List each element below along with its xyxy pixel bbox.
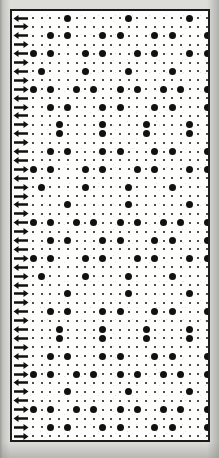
matrix-dot-small bbox=[154, 62, 156, 64]
matrix-dot-small bbox=[76, 124, 78, 126]
matrix-dot-small bbox=[197, 293, 199, 295]
arrow-marker-icon-right bbox=[13, 432, 29, 441]
matrix-dot-small bbox=[189, 222, 191, 224]
matrix-dot-small bbox=[93, 35, 95, 37]
arrow-marker-icon-right bbox=[13, 298, 29, 307]
matrix-dot-small bbox=[84, 213, 86, 215]
matrix-dot-small bbox=[180, 231, 182, 233]
matrix-dot-small bbox=[58, 275, 60, 277]
matrix-dot-small bbox=[41, 426, 43, 428]
matrix-dot-large bbox=[177, 406, 184, 413]
matrix-dot-small bbox=[76, 320, 78, 322]
matrix-dot-small bbox=[206, 124, 208, 126]
dot-matrix-grid bbox=[29, 11, 208, 440]
matrix-dot-small bbox=[206, 195, 208, 197]
matrix-dot-small bbox=[58, 382, 60, 384]
matrix-dot-small bbox=[154, 177, 156, 179]
matrix-dot-small bbox=[110, 364, 112, 366]
arrow-marker-icon-left bbox=[13, 352, 29, 361]
matrix-dot-small bbox=[76, 97, 78, 99]
matrix-dot-small bbox=[145, 195, 147, 197]
matrix-dot-small bbox=[154, 17, 156, 19]
matrix-dot-small bbox=[154, 337, 156, 339]
matrix-dot-small bbox=[136, 364, 138, 366]
matrix-dot-small bbox=[49, 231, 51, 233]
matrix-dot-small bbox=[128, 311, 130, 313]
matrix-dot-small bbox=[102, 97, 104, 99]
matrix-dot-small bbox=[84, 329, 86, 331]
matrix-dot-small bbox=[180, 195, 182, 197]
matrix-dot-small bbox=[171, 302, 173, 304]
matrix-dot-small bbox=[67, 373, 69, 375]
matrix-dot-small bbox=[49, 400, 51, 402]
matrix-dot-small bbox=[58, 231, 60, 233]
matrix-dot-small bbox=[76, 186, 78, 188]
matrix-dot-small bbox=[189, 311, 191, 313]
matrix-dot-small bbox=[67, 435, 69, 437]
matrix-dot-small bbox=[189, 400, 191, 402]
matrix-dot-small bbox=[49, 284, 51, 286]
matrix-dot-small bbox=[110, 355, 112, 357]
arrow-marker-icon-right bbox=[13, 405, 29, 414]
matrix-dot-large bbox=[169, 32, 176, 39]
matrix-dot-large bbox=[125, 290, 132, 297]
matrix-dot-small bbox=[197, 275, 199, 277]
matrix-dot-large bbox=[160, 86, 167, 93]
matrix-dot-small bbox=[197, 409, 199, 411]
matrix-dot-small bbox=[180, 275, 182, 277]
matrix-dot-small bbox=[189, 320, 191, 322]
matrix-dot-small bbox=[136, 204, 138, 206]
matrix-dot-small bbox=[119, 115, 121, 117]
matrix-dot-large bbox=[73, 406, 80, 413]
matrix-dot-small bbox=[49, 133, 51, 135]
matrix-dot-small bbox=[197, 115, 199, 117]
matrix-dot-large bbox=[204, 371, 209, 378]
arrow-marker-icon-right bbox=[13, 387, 29, 396]
matrix-dot-large bbox=[125, 201, 132, 208]
matrix-dot-small bbox=[93, 320, 95, 322]
matrix-dot-small bbox=[102, 302, 104, 304]
matrix-dot-small bbox=[49, 26, 51, 28]
matrix-dot-small bbox=[163, 426, 165, 428]
matrix-dot-small bbox=[180, 364, 182, 366]
matrix-dot-small bbox=[154, 320, 156, 322]
matrix-dot-large bbox=[117, 104, 124, 111]
matrix-dot-small bbox=[84, 177, 86, 179]
matrix-dot-large bbox=[30, 406, 37, 413]
matrix-dot-small bbox=[180, 213, 182, 215]
matrix-dot-small bbox=[163, 151, 165, 153]
matrix-dot-small bbox=[145, 17, 147, 19]
matrix-dot-small bbox=[49, 186, 51, 188]
matrix-dot-small bbox=[136, 106, 138, 108]
matrix-dot-small bbox=[41, 320, 43, 322]
matrix-dot-small bbox=[163, 320, 165, 322]
matrix-dot-small bbox=[119, 17, 121, 19]
matrix-dot-small bbox=[163, 346, 165, 348]
matrix-dot-large bbox=[186, 166, 193, 173]
matrix-dot-small bbox=[180, 346, 182, 348]
matrix-dot-small bbox=[189, 44, 191, 46]
matrix-dot-small bbox=[197, 168, 199, 170]
matrix-dot-small bbox=[180, 151, 182, 153]
matrix-dot-small bbox=[58, 418, 60, 420]
matrix-dot-small bbox=[180, 186, 182, 188]
matrix-dot-small bbox=[171, 364, 173, 366]
matrix-dot-small bbox=[145, 302, 147, 304]
matrix-dot-small bbox=[84, 382, 86, 384]
matrix-dot-small bbox=[119, 53, 121, 55]
matrix-dot-small bbox=[145, 418, 147, 420]
arrow-marker-icon-left bbox=[13, 31, 29, 40]
matrix-dot-small bbox=[84, 391, 86, 393]
matrix-dot-small bbox=[93, 240, 95, 242]
matrix-dot-small bbox=[84, 26, 86, 28]
matrix-dot-small bbox=[163, 177, 165, 179]
matrix-dot-small bbox=[41, 124, 43, 126]
arrow-marker-icon-left bbox=[13, 156, 29, 165]
matrix-dot-small bbox=[67, 284, 69, 286]
matrix-dot-small bbox=[163, 35, 165, 37]
matrix-dot-small bbox=[197, 391, 199, 393]
matrix-dot-small bbox=[145, 382, 147, 384]
arrow-marker-icon-right bbox=[13, 120, 29, 129]
matrix-dot-small bbox=[49, 97, 51, 99]
matrix-dot-small bbox=[67, 62, 69, 64]
